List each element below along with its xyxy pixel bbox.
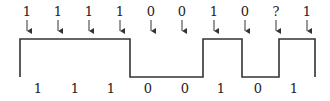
top-label: 0 bbox=[178, 4, 186, 19]
top-label: 1 bbox=[54, 4, 62, 19]
top-label: 0 bbox=[241, 4, 249, 19]
signal-waveform bbox=[20, 39, 315, 77]
top-label: 1 bbox=[23, 4, 31, 19]
bottom-label: 0 bbox=[254, 81, 262, 96]
bottom-label: 0 bbox=[181, 81, 189, 96]
top-label: ? bbox=[273, 4, 280, 19]
top-label: 1 bbox=[116, 4, 124, 19]
top-label: 0 bbox=[147, 4, 155, 19]
top-label: 1 bbox=[210, 4, 218, 19]
top-label: 1 bbox=[303, 4, 311, 19]
bottom-bit-labels: 1 1 1 0 0 1 0 1 bbox=[34, 81, 298, 96]
bottom-label: 1 bbox=[71, 81, 79, 96]
top-bit-labels: 1 1 1 1 0 0 1 0 ? 1 bbox=[23, 4, 311, 19]
bottom-label: 1 bbox=[290, 81, 298, 96]
top-label: 1 bbox=[85, 4, 93, 19]
bottom-label: 0 bbox=[144, 81, 152, 96]
sampling-arrows bbox=[27, 20, 307, 31]
bottom-label: 1 bbox=[107, 81, 115, 96]
bottom-label: 1 bbox=[217, 81, 225, 96]
waveform-diagram: 1 1 1 1 0 0 1 0 ? 1 1 1 1 0 0 1 0 1 bbox=[0, 0, 330, 101]
bottom-label: 1 bbox=[34, 81, 42, 96]
